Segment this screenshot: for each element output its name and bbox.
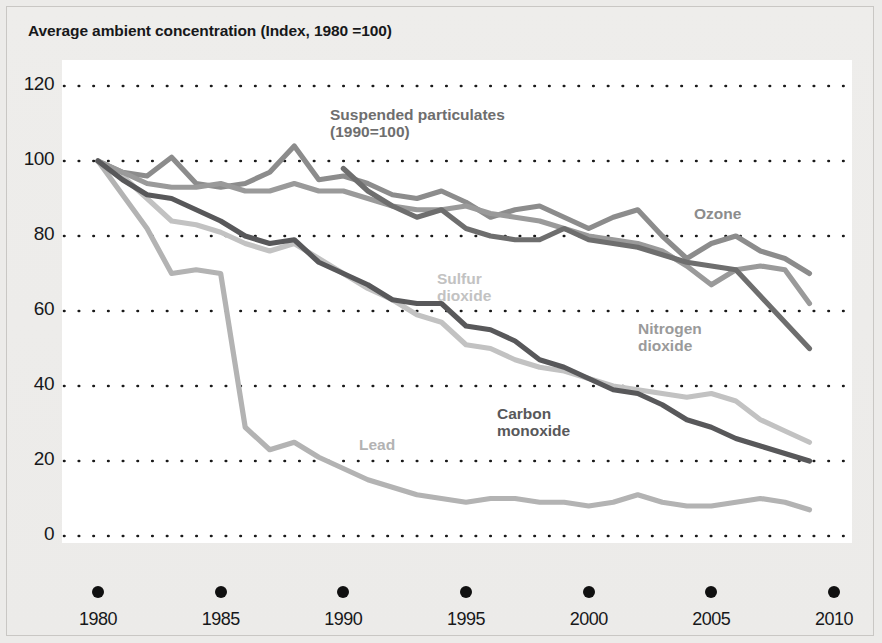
x-tick-dot-1985 (215, 586, 227, 598)
x-tick-dot-2010 (828, 586, 840, 598)
series-label-carbon: Carbon monoxide (497, 405, 570, 440)
y-tick-60: 60 (0, 298, 54, 320)
x-tick-1990: 1990 (298, 609, 388, 630)
x-tick-2010: 2010 (789, 609, 879, 630)
series-label-ozone: Ozone (694, 205, 741, 222)
series-label-sulfur: Sulfur dioxide (437, 270, 491, 305)
x-tick-dot-1995 (460, 586, 472, 598)
y-tick-20: 20 (0, 448, 54, 470)
x-tick-1995: 1995 (421, 609, 511, 630)
page-title: Average ambient concentration (Index, 19… (28, 22, 392, 40)
chart-page: Average ambient concentration (Index, 19… (0, 0, 882, 643)
y-tick-0: 0 (0, 523, 54, 545)
series-label-suspended: Suspended particulates (1990=100) (330, 106, 505, 141)
y-tick-120: 120 (0, 73, 54, 95)
x-tick-dot-1980 (92, 586, 104, 598)
y-tick-40: 40 (0, 373, 54, 395)
x-tick-1980: 1980 (53, 609, 143, 630)
series-label-nitrogen: Nitrogen dioxide (638, 320, 702, 355)
x-tick-dot-2000 (583, 586, 595, 598)
x-tick-2005: 2005 (666, 609, 756, 630)
y-tick-100: 100 (0, 148, 54, 170)
series-label-lead: Lead (359, 436, 395, 453)
x-tick-1985: 1985 (176, 609, 266, 630)
x-tick-2000: 2000 (544, 609, 634, 630)
y-tick-80: 80 (0, 223, 54, 245)
